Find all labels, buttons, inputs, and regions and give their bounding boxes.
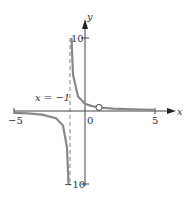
function-graph: y x −5 0 5 10 −10 x = −1 (0, 0, 186, 201)
x-axis-label: x (177, 106, 183, 117)
y-tick-label-max: 10 (71, 33, 84, 44)
x-tick-label-zero: 0 (87, 115, 93, 126)
x-axis-arrow-icon (167, 108, 176, 114)
hole-point (96, 104, 102, 110)
asymptote-label: x = −1 (35, 92, 70, 103)
y-axis-label: y (86, 11, 93, 22)
x-tick-label-min: −5 (8, 115, 23, 126)
x-tick-label-max: 5 (152, 115, 158, 126)
right-branch-curve (72, 38, 156, 110)
y-tick-label-min: −10 (64, 179, 85, 190)
